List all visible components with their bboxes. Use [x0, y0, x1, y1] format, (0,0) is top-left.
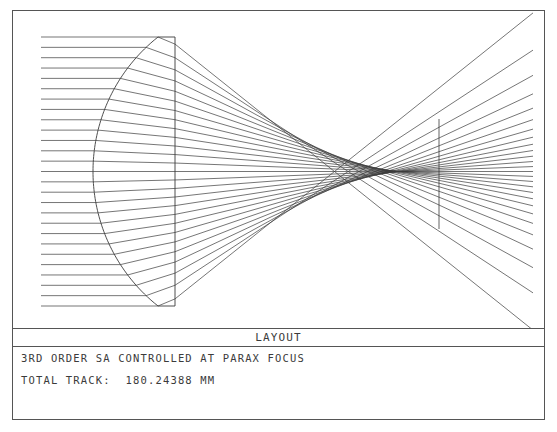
ray-22 [41, 120, 533, 255]
ray-12 [41, 151, 533, 182]
caption-line-1: 3RD ORDER SA CONTROLLED AT PARAX FOCUS [21, 353, 544, 364]
ray-15 [41, 167, 533, 182]
ray-bundle [41, 13, 533, 328]
title-band: LAYOUT [13, 328, 544, 346]
ray-13 [41, 161, 533, 176]
info-band: 3RD ORDER SA CONTROLLED AT PARAX FOCUS T… [13, 347, 544, 420]
ray-trace-svg [13, 11, 544, 328]
figure-title: LAYOUT [255, 332, 301, 343]
figure-frame: LAYOUT 3RD ORDER SA CONTROLLED AT PARAX … [12, 10, 545, 420]
optical-layout-plot [13, 11, 544, 328]
layout-figure-root: LAYOUT 3RD ORDER SA CONTROLLED AT PARAX … [0, 0, 557, 432]
caption-line-2: TOTAL TRACK: 180.24388 MM [21, 375, 544, 386]
ray-27 [41, 13, 533, 306]
ray-16 [41, 161, 533, 192]
ray-6 [41, 89, 533, 224]
ray-1 [41, 37, 533, 328]
